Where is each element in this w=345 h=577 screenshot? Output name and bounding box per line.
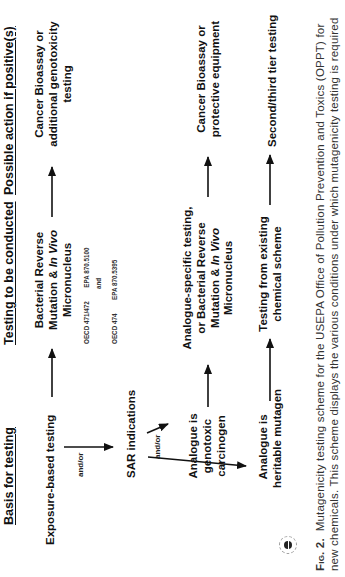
flow-arrows [0,0,345,577]
caption-line-2: new chemicals. This scheme displays the … [328,18,342,571]
figure-caption: Fig. 2. Mutagenicity testing scheme for … [314,18,341,571]
arrow-sar-to-genotoxic-line [147,424,168,433]
caption-line-1-text: Mutagenicity testing scheme for the USEP… [314,24,326,532]
caption-line-1: Fig. 2. Mutagenicity testing scheme for … [314,18,328,571]
publisher-logo-icon [279,536,297,554]
figure-page: Basis for testing Testing to be conducte… [0,0,345,577]
caption-figure-label: Fig. 2. [314,538,326,571]
arrow-sar-to-heritable [148,457,246,466]
